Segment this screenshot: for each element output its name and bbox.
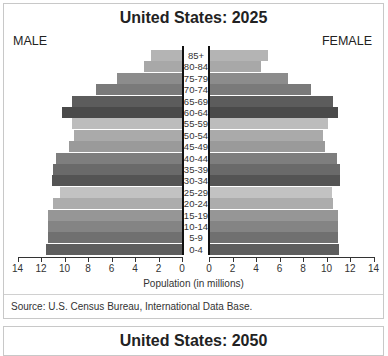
age-group-label: 70-74 [183, 84, 209, 95]
x-tick [112, 257, 113, 262]
female-bar [210, 73, 288, 84]
x-tick-label: 12 [340, 263, 360, 274]
x-tick [182, 257, 183, 262]
female-axis-line [208, 46, 210, 255]
age-group-label: 35-39 [183, 164, 209, 175]
female-bar [210, 175, 340, 186]
x-axis-label: Population (in millions) [4, 278, 383, 289]
male-bar [72, 96, 182, 107]
age-group-label: 15-19 [183, 210, 209, 221]
x-tick [159, 257, 160, 262]
age-group-label: 85+ [183, 50, 209, 61]
pyramid-panel-2025: United States: 2025 MALE FEMALE 85+80-84… [3, 3, 384, 319]
male-bar [56, 153, 182, 164]
female-bar [210, 164, 340, 175]
male-bar [46, 244, 182, 255]
age-group-label: 10-14 [183, 221, 209, 232]
source-divider [4, 294, 383, 295]
female-bar [210, 130, 323, 141]
male-bar [53, 164, 182, 175]
age-group-label: 40-44 [183, 153, 209, 164]
x-tick-label: 6 [270, 263, 290, 274]
male-bar [117, 73, 182, 84]
age-group-label: 55-59 [183, 118, 209, 129]
female-bar [210, 153, 337, 164]
age-group-label: 65-69 [183, 96, 209, 107]
male-bar [151, 50, 182, 61]
x-tick-label: 14 [8, 263, 28, 274]
age-group-label: 5-9 [183, 232, 209, 243]
x-tick [65, 257, 66, 262]
female-bar [210, 118, 328, 129]
male-bar [74, 130, 182, 141]
x-tick-label: 2 [223, 263, 243, 274]
age-group-label: 25-29 [183, 187, 209, 198]
x-tick [18, 257, 19, 262]
male-x-axis [18, 257, 183, 258]
x-tick [135, 257, 136, 262]
x-tick [41, 257, 42, 262]
x-tick-label: 8 [293, 263, 313, 274]
female-bar [210, 61, 261, 72]
male-bar [48, 210, 182, 221]
chart-title-2050: United States: 2050 [4, 332, 383, 350]
x-tick [256, 257, 257, 262]
x-tick-label: 12 [31, 263, 51, 274]
x-tick [374, 257, 375, 262]
age-group-label: 0-4 [183, 244, 209, 255]
x-tick [303, 257, 304, 262]
female-bar [210, 198, 333, 209]
x-tick-label: 0 [172, 263, 192, 274]
male-bar [60, 187, 182, 198]
x-tick [209, 257, 210, 262]
male-bar [69, 141, 182, 152]
female-bar [210, 96, 333, 107]
male-bar [62, 107, 182, 118]
age-group-label: 75-79 [183, 73, 209, 84]
x-tick-label: 4 [246, 263, 266, 274]
x-tick [88, 257, 89, 262]
male-bar [52, 175, 182, 186]
x-tick [280, 257, 281, 262]
pyramid-panel-2050: United States: 2050 [3, 326, 384, 356]
male-bar [144, 61, 182, 72]
age-group-label: 50-54 [183, 130, 209, 141]
female-bar [210, 210, 338, 221]
x-tick [327, 257, 328, 262]
x-tick-label: 6 [102, 263, 122, 274]
x-tick-label: 14 [364, 263, 384, 274]
male-bar [48, 221, 182, 232]
female-bar [210, 50, 268, 61]
male-bar [53, 198, 182, 209]
x-tick-label: 10 [317, 263, 337, 274]
x-tick-label: 10 [55, 263, 75, 274]
female-bar [210, 244, 339, 255]
female-bar [210, 232, 338, 243]
age-group-label: 30-34 [183, 175, 209, 186]
male-bar [48, 232, 182, 243]
male-axis-line [182, 46, 184, 255]
female-bar [210, 107, 338, 118]
female-bar [210, 84, 311, 95]
male-bar [96, 84, 182, 95]
x-tick-label: 8 [78, 263, 98, 274]
x-tick-label: 0 [199, 263, 219, 274]
female-bar [210, 187, 332, 198]
age-group-label: 80-84 [183, 61, 209, 72]
age-group-label: 60-64 [183, 107, 209, 118]
x-tick [233, 257, 234, 262]
x-tick-label: 2 [149, 263, 169, 274]
x-tick-label: 4 [125, 263, 145, 274]
age-group-label: 20-24 [183, 198, 209, 209]
x-tick [350, 257, 351, 262]
age-group-label: 45-49 [183, 141, 209, 152]
female-x-axis [209, 257, 374, 258]
female-bar [210, 141, 325, 152]
source-note: Source: U.S. Census Bureau, Internationa… [11, 301, 252, 312]
male-bar [72, 118, 182, 129]
population-pyramid: 85+80-8475-7970-7465-6960-6455-5950-5445… [4, 4, 385, 320]
female-bar [210, 221, 338, 232]
